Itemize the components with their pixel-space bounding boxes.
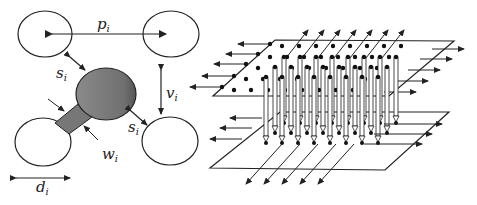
width-arrow-upper bbox=[48, 99, 64, 111]
figure-canvas: pi si si vi wi di bbox=[0, 0, 477, 205]
spacing-arrow-top bbox=[70, 57, 85, 70]
via-dot bbox=[249, 88, 253, 92]
via-dot bbox=[362, 55, 366, 59]
diameter-label: di bbox=[36, 178, 49, 197]
vertical-pitch-label: vi bbox=[166, 84, 178, 103]
via-dot bbox=[305, 131, 309, 135]
via-dot bbox=[302, 55, 306, 59]
via-dot bbox=[289, 65, 293, 69]
via-dot bbox=[289, 131, 293, 135]
via-dot bbox=[268, 42, 272, 46]
via-dot bbox=[312, 75, 316, 79]
via-dot bbox=[353, 65, 357, 69]
via-column bbox=[353, 67, 357, 126]
via-column bbox=[273, 67, 277, 126]
via-pad bbox=[76, 68, 136, 120]
via-dot bbox=[319, 55, 323, 59]
pitch-label: pi bbox=[97, 15, 110, 34]
via-dot bbox=[369, 131, 373, 135]
via-dot bbox=[273, 131, 277, 135]
via-column bbox=[305, 67, 309, 126]
via-dot bbox=[232, 74, 236, 78]
fanout-arrow-down bbox=[246, 144, 282, 184]
via-column bbox=[344, 77, 348, 136]
via-dot bbox=[305, 65, 309, 69]
via-dot bbox=[365, 44, 369, 48]
via-column bbox=[394, 57, 398, 116]
via-dot bbox=[268, 55, 272, 59]
via-dot bbox=[394, 55, 398, 59]
via-dot bbox=[296, 75, 300, 79]
via-column bbox=[328, 77, 332, 136]
via-dot bbox=[280, 75, 284, 79]
via-column bbox=[385, 67, 389, 126]
via-dot bbox=[376, 75, 380, 79]
via-column bbox=[337, 67, 341, 126]
via-column bbox=[321, 67, 325, 126]
via-dot bbox=[321, 65, 325, 69]
width-label: wi bbox=[102, 145, 118, 164]
via-dot bbox=[232, 88, 236, 92]
via-dot bbox=[328, 75, 332, 79]
via-column bbox=[280, 77, 284, 136]
via-dot bbox=[378, 55, 382, 59]
via-dot bbox=[282, 55, 286, 59]
fanout-arrow-down bbox=[318, 144, 354, 184]
via-dot bbox=[337, 65, 341, 69]
via-dot bbox=[336, 55, 340, 59]
fanout-arrow-down bbox=[300, 144, 336, 184]
via-dot bbox=[244, 62, 248, 66]
via-pad-diagram: pi si si vi wi di bbox=[15, 11, 199, 197]
spacing-label-top: si bbox=[56, 64, 67, 83]
via-column bbox=[312, 77, 316, 136]
via-dot bbox=[330, 55, 334, 59]
via-dot bbox=[314, 55, 318, 59]
via-dot bbox=[341, 66, 345, 70]
via-dot bbox=[346, 55, 350, 59]
via-dot bbox=[314, 44, 318, 48]
fanout-arrow-down bbox=[282, 144, 318, 184]
via-dot bbox=[370, 55, 374, 59]
via-dot bbox=[280, 44, 284, 48]
via-dot bbox=[220, 85, 224, 89]
width-arrow-lower bbox=[84, 126, 98, 140]
via-dot bbox=[382, 44, 386, 48]
via-dot bbox=[369, 65, 373, 69]
via-dot bbox=[331, 44, 335, 48]
via-dot bbox=[328, 141, 332, 145]
fanout-arrow-down bbox=[264, 144, 300, 184]
via-column bbox=[296, 77, 300, 136]
via-dot bbox=[344, 75, 348, 79]
via-dot bbox=[337, 131, 341, 135]
via-dot bbox=[273, 65, 277, 69]
via-column bbox=[369, 67, 373, 126]
via-dot bbox=[360, 141, 364, 145]
via-dot bbox=[264, 141, 268, 145]
via-array-3d-diagram bbox=[190, 30, 464, 184]
spacing-label-bottom: si bbox=[128, 118, 139, 137]
via-dot bbox=[297, 44, 301, 48]
via-column bbox=[289, 67, 293, 126]
via-dot bbox=[353, 131, 357, 135]
via-dot bbox=[256, 52, 260, 56]
via-dot bbox=[298, 55, 302, 59]
via-dot bbox=[344, 141, 348, 145]
via-dot bbox=[348, 44, 352, 48]
via-column bbox=[264, 77, 268, 136]
via-dot bbox=[353, 55, 357, 59]
via-dot bbox=[399, 44, 403, 48]
via-dot bbox=[312, 141, 316, 145]
via-dot bbox=[321, 131, 325, 135]
via-dot bbox=[256, 66, 260, 70]
via-column bbox=[360, 77, 364, 136]
via-dot bbox=[360, 75, 364, 79]
via-dot bbox=[387, 55, 391, 59]
via-dot bbox=[358, 66, 362, 70]
via-column bbox=[376, 77, 380, 136]
via-dot bbox=[385, 65, 389, 69]
via-circle-bottom-right bbox=[142, 117, 198, 165]
via-dot bbox=[244, 77, 248, 81]
via-dot bbox=[264, 75, 268, 79]
